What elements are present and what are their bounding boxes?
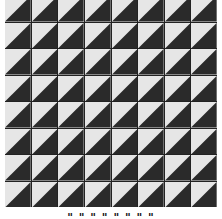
triangle-tile — [112, 23, 138, 49]
triangle-tile — [191, 182, 217, 208]
triangle-tile — [191, 155, 217, 181]
triangle-tile — [138, 23, 164, 49]
triangle-tile — [32, 23, 58, 49]
triangle-tile — [138, 129, 164, 155]
triangle-tile — [85, 23, 111, 49]
triangle-tile — [191, 49, 217, 75]
triangle-tile — [138, 49, 164, 75]
triangle-tile — [138, 76, 164, 102]
triangle-tile — [165, 182, 191, 208]
triangle-tile — [165, 49, 191, 75]
triangle-tile — [58, 76, 84, 102]
triangle-tile — [138, 0, 164, 22]
triangle-tile — [32, 76, 58, 102]
triangle-tile — [138, 102, 164, 128]
triangle-tile — [191, 0, 217, 22]
triangle-tile — [85, 49, 111, 75]
triangle-tile — [32, 129, 58, 155]
triangle-tile — [138, 155, 164, 181]
triangle-tile — [5, 182, 31, 208]
triangle-tile — [85, 0, 111, 22]
triangle-tile — [32, 182, 58, 208]
triangle-tile — [58, 0, 84, 22]
caption-text-partial: " " " " " " " " — [0, 211, 222, 219]
triangle-tile — [32, 49, 58, 75]
triangle-tile — [58, 102, 84, 128]
triangle-tile — [58, 129, 84, 155]
triangle-tile — [112, 155, 138, 181]
triangle-tile — [85, 155, 111, 181]
triangle-tile — [85, 182, 111, 208]
triangle-tile — [85, 102, 111, 128]
triangle-tile — [5, 0, 31, 22]
triangle-tile — [112, 49, 138, 75]
triangle-tile — [32, 0, 58, 22]
triangle-tile — [112, 102, 138, 128]
triangle-tile — [191, 23, 217, 49]
triangle-tile — [5, 23, 31, 49]
triangle-tile — [165, 23, 191, 49]
triangle-tile — [58, 155, 84, 181]
triangle-tile — [58, 49, 84, 75]
triangle-tile — [191, 76, 217, 102]
triangle-tile — [85, 129, 111, 155]
triangle-tile — [32, 102, 58, 128]
triangle-tile — [112, 182, 138, 208]
triangle-tile — [165, 0, 191, 22]
triangle-tile — [191, 129, 217, 155]
triangle-tile — [165, 102, 191, 128]
triangle-tile — [5, 102, 31, 128]
triangle-tile — [112, 129, 138, 155]
triangle-tile — [165, 76, 191, 102]
triangle-tile — [58, 23, 84, 49]
triangle-tile — [32, 155, 58, 181]
triangle-tile — [138, 182, 164, 208]
triangle-tile — [5, 49, 31, 75]
triangle-tile — [165, 155, 191, 181]
triangle-tile — [112, 0, 138, 22]
triangle-tile — [191, 102, 217, 128]
triangle-tile — [165, 129, 191, 155]
triangle-tile — [58, 182, 84, 208]
triangle-tile — [5, 76, 31, 102]
triangle-tile — [5, 155, 31, 181]
triangle-tile-grid — [5, 0, 217, 207]
triangle-tile — [5, 129, 31, 155]
triangle-tile — [112, 76, 138, 102]
triangle-tile — [85, 76, 111, 102]
